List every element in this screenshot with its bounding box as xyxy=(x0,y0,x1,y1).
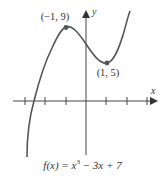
max-point-label: (−1, 9) xyxy=(41,11,70,23)
caption-rest: − 3x + 7 xyxy=(80,159,122,171)
local-max-point xyxy=(64,25,69,30)
graph-canvas: (−1, 9) (1, 5) y x xyxy=(0,0,165,179)
x-axis-label: x xyxy=(150,85,156,96)
y-axis-label: y xyxy=(91,6,97,17)
function-curve xyxy=(27,11,130,157)
caption-main: f(x) = x xyxy=(43,159,76,171)
min-point-label: (1, 5) xyxy=(97,67,120,79)
function-caption: f(x) = x3 − 3x + 7 xyxy=(0,158,165,171)
local-min-point xyxy=(105,61,110,66)
